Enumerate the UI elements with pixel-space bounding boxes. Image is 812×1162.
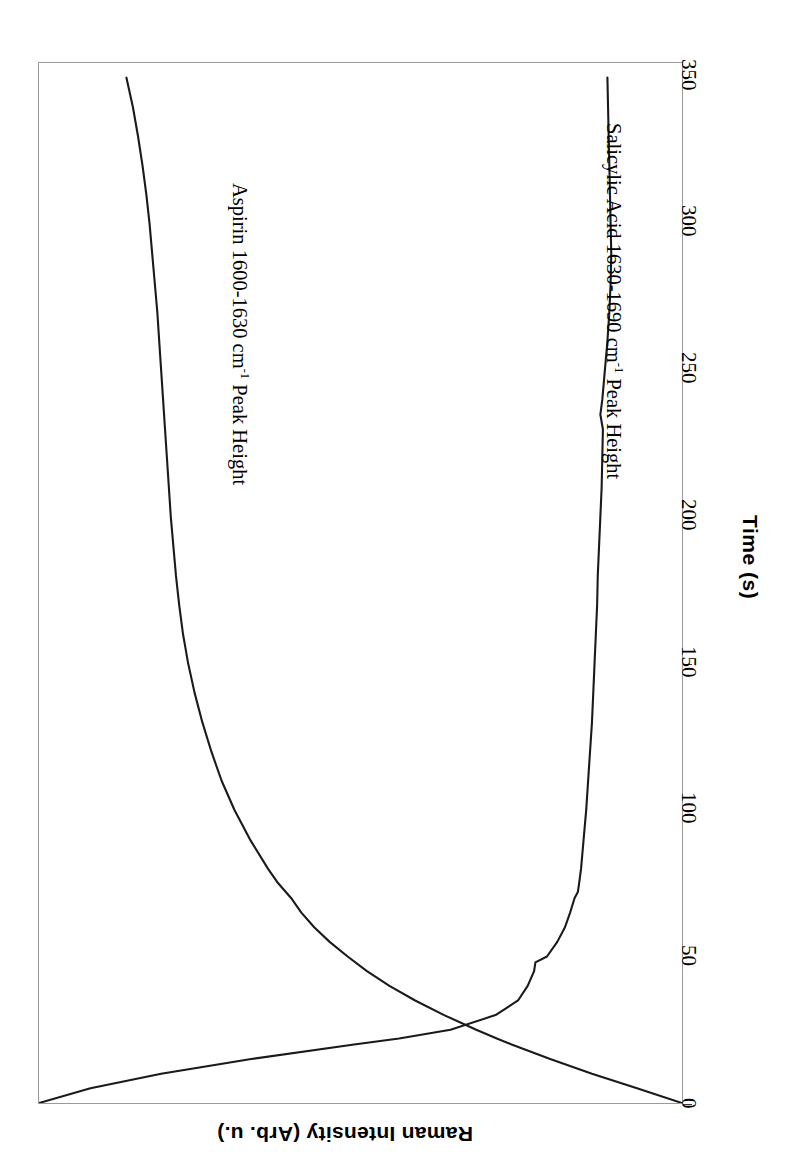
x-axis-tick-label: 250 [676,352,701,384]
series-paths [39,78,682,1103]
series-label-salicylic-prefix: Salicylic Acid 1630-1690 cm [603,123,625,363]
series-line-aspirin [126,78,682,1103]
series-label-aspirin-superscript: -1 [238,369,252,380]
x-axis-tick-label: 100 [676,792,701,824]
series-label-aspirin-suffix: Peak Height [229,379,251,485]
x-axis-tick-label: 50 [676,945,701,966]
series-label-salicylic-suffix: Peak Height [603,373,625,479]
x-axis-tick-label: 0 [676,1098,701,1109]
x-axis-tick-label: 300 [676,205,701,237]
x-axis-title: Time (s) [738,515,762,599]
x-axis-tick-label: 350 [676,59,701,91]
curves-svg [39,63,682,1103]
x-axis-tick-label: 200 [676,499,701,531]
x-axis-tick-label: 150 [676,646,701,678]
y-axis-title: Raman Intensity (Arb. u.) [155,1122,535,1146]
series-label-salicylic-superscript: -1 [612,363,626,374]
series-label-aspirin: Aspirin 1600-1630 cm-1 Peak Height [228,183,251,485]
series-line-salicylic [39,78,611,1103]
raman-kinetics-figure: Aspirin 1600-1630 cm-1 Peak Height Salic… [0,0,812,1162]
series-label-aspirin-prefix: Aspirin 1600-1630 cm [229,183,251,369]
series-label-salicylic: Salicylic Acid 1630-1690 cm-1 Peak Heigh… [602,123,625,479]
plot-area: Aspirin 1600-1630 cm-1 Peak Height Salic… [38,62,683,1104]
